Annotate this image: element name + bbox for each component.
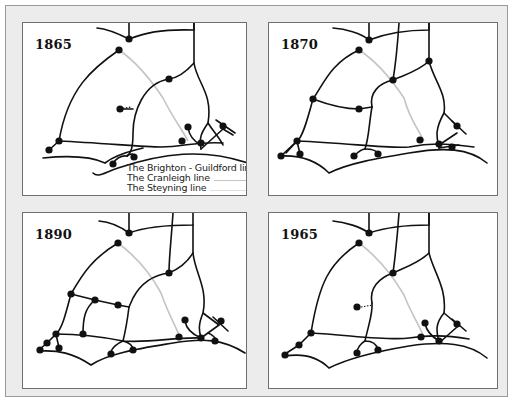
railway-line [193, 225, 204, 338]
railway-line [285, 344, 487, 368]
railway-line [371, 273, 393, 303]
station-node [211, 337, 218, 344]
station-node [116, 105, 123, 112]
steyning-line-swatch [210, 190, 247, 191]
station-node [165, 269, 172, 276]
station-node [355, 46, 362, 53]
cranleigh-line [119, 50, 188, 141]
railway-line [129, 213, 193, 233]
legend-item-steyning: The Steyning line [127, 183, 247, 193]
station-node [67, 290, 74, 297]
station-node [374, 150, 381, 157]
railway-line [365, 107, 372, 149]
station-node [350, 152, 357, 159]
station-node [453, 320, 460, 327]
cranleigh-line-swatch [214, 180, 247, 181]
station-node [107, 350, 114, 357]
railway-line [393, 61, 429, 80]
station-node [125, 229, 132, 236]
station-node [389, 76, 396, 83]
station-node [219, 122, 226, 129]
station-node [175, 333, 182, 340]
year-label-1865: 1865 [35, 37, 72, 52]
railway-line [56, 294, 71, 334]
map-panel-1965: 1965 [268, 212, 498, 389]
railway-line [194, 23, 209, 149]
railway-line [99, 221, 129, 233]
station-node [453, 122, 460, 129]
railway-line [313, 50, 359, 99]
railway-line [129, 273, 169, 307]
railway-line [83, 300, 95, 334]
station-node [417, 333, 424, 340]
cranleigh-line [359, 243, 423, 335]
station-node [448, 143, 455, 150]
station-node [296, 150, 303, 157]
station-node [45, 146, 52, 153]
station-node [197, 139, 204, 146]
station-node [114, 301, 121, 308]
station-node [181, 316, 188, 323]
railway-line [393, 213, 399, 273]
map-panel-1890: 1890 [22, 212, 247, 389]
railway-line [313, 99, 372, 109]
legend-label: The Steyning line [127, 183, 206, 193]
station-node [365, 229, 372, 236]
railway-line [393, 23, 399, 80]
station-node [43, 339, 50, 346]
railway-line [203, 313, 219, 325]
station-node [36, 346, 43, 353]
station-node [55, 137, 62, 144]
station-node [91, 296, 98, 303]
station-node [217, 317, 224, 324]
railway-line [429, 23, 444, 148]
station-node [309, 95, 316, 102]
map-panel-1865: 1865 The Brighton - Guildford link The C… [22, 22, 247, 196]
railway-line [169, 213, 173, 273]
station-node [281, 351, 288, 358]
station-node [178, 137, 185, 144]
railway-line [371, 80, 393, 107]
railway-line [169, 253, 193, 273]
steyning-line [361, 305, 373, 307]
railway-line [129, 23, 194, 39]
railway-line [297, 99, 313, 141]
station-node [165, 75, 172, 82]
station-node [293, 137, 300, 144]
station-node [421, 319, 428, 326]
railway-line [429, 213, 444, 343]
station-node [55, 344, 62, 351]
station-node [353, 349, 360, 356]
station-node [197, 334, 204, 341]
station-node [353, 303, 360, 310]
station-node [129, 346, 136, 353]
year-label-1890: 1890 [35, 227, 72, 242]
station-node [389, 269, 396, 276]
year-label-1870: 1870 [281, 37, 318, 52]
railway-line [333, 28, 369, 40]
station-node [115, 46, 122, 53]
station-node [307, 329, 314, 336]
railway-line [59, 50, 119, 141]
station-node [365, 36, 372, 43]
station-node [184, 123, 191, 130]
station-node [355, 239, 362, 246]
station-node [355, 105, 362, 112]
railway-line [311, 243, 359, 333]
map-panel-1870: 1870 [268, 22, 498, 196]
railway-line [97, 28, 129, 39]
station-node [52, 330, 59, 337]
railway-line [123, 307, 129, 341]
legend: The Brighton - Guildford link The Cranle… [127, 163, 247, 193]
station-node [130, 153, 137, 160]
station-node [277, 152, 284, 159]
station-node [109, 160, 116, 167]
railway-line [365, 303, 372, 341]
station-node [425, 57, 432, 64]
station-node [125, 35, 132, 42]
year-label-1965: 1965 [281, 227, 318, 242]
station-node [435, 337, 442, 344]
station-node [374, 346, 381, 353]
railway-line [71, 243, 118, 294]
station-node [114, 239, 121, 246]
